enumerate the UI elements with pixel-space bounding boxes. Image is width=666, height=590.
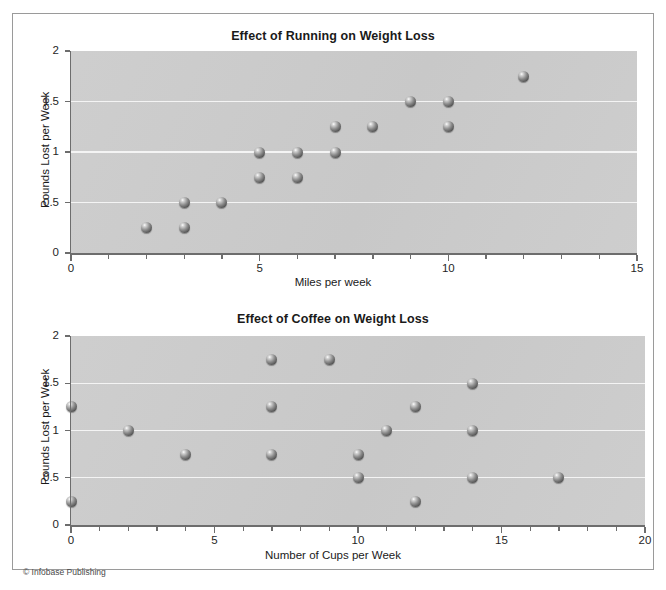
y-axis-tick — [65, 430, 70, 431]
data-point — [292, 147, 303, 158]
gridline — [71, 101, 637, 102]
y-axis-tick — [65, 50, 70, 51]
y-axis-title-running: Pounds Lost per Week — [39, 92, 51, 208]
figure-border: Effect of Running on Weight Loss 00.511.… — [12, 13, 654, 570]
x-axis-tick-label: 0 — [51, 262, 91, 274]
copyright-credit: © Infobase Publishing — [23, 567, 106, 577]
x-axis-tick-label: 0 — [51, 534, 91, 546]
gridline — [71, 202, 637, 203]
x-axis-tick-label: 10 — [338, 534, 378, 546]
x-axis-tick-major — [357, 527, 358, 533]
x-axis-tick-major — [259, 255, 260, 261]
x-axis-tick-major — [70, 255, 71, 261]
data-point — [123, 425, 134, 436]
x-axis-tick-label: 15 — [617, 262, 657, 274]
gridline — [71, 151, 637, 152]
x-axis-tick-minor — [530, 527, 531, 531]
data-point — [467, 378, 478, 389]
y-axis-tick — [65, 524, 70, 525]
x-axis-tick-minor — [616, 527, 617, 531]
y-axis-tick-label: 0 — [25, 246, 59, 258]
data-point — [443, 96, 454, 107]
y-axis-tick — [65, 252, 70, 253]
x-axis-tick-minor — [587, 527, 588, 531]
data-point — [410, 496, 421, 507]
x-axis-tick-minor — [334, 255, 335, 259]
x-axis-tick-minor — [243, 527, 244, 531]
x-axis-tick-minor — [599, 255, 600, 259]
x-axis-tick-minor — [156, 527, 157, 531]
x-axis-tick-major — [214, 527, 215, 533]
chart-title-coffee: Effect of Coffee on Weight Loss — [13, 312, 653, 326]
x-axis-title-running: Miles per week — [13, 276, 653, 288]
data-point — [180, 449, 191, 460]
chart-panel-running: Effect of Running on Weight Loss 00.511.… — [13, 14, 653, 299]
x-axis-tick-major — [636, 255, 637, 261]
chart-panel-coffee: Effect of Coffee on Weight Loss 00.511.5… — [13, 299, 653, 571]
x-axis-tick-minor — [184, 255, 185, 259]
data-point — [324, 354, 335, 365]
x-axis-tick-minor — [523, 255, 524, 259]
y-axis-tick — [65, 101, 70, 102]
x-axis-tick-major — [448, 255, 449, 261]
x-axis-tick-minor — [410, 255, 411, 259]
y-axis-line — [70, 336, 72, 527]
data-point — [330, 121, 341, 132]
x-axis-tick-label: 5 — [195, 534, 235, 546]
data-point — [254, 172, 265, 183]
data-point — [443, 121, 454, 132]
y-axis-line — [70, 51, 72, 255]
data-point — [66, 496, 77, 507]
plot-region-coffee — [71, 336, 645, 525]
data-point — [179, 197, 190, 208]
data-point — [254, 147, 265, 158]
x-axis-tick-minor — [472, 527, 473, 531]
x-axis-tick-minor — [146, 255, 147, 259]
x-axis-tick-major — [501, 527, 502, 533]
y-axis-tick-label: 0 — [25, 518, 59, 530]
y-axis-tick — [65, 335, 70, 336]
x-axis-tick-minor — [271, 527, 272, 531]
x-axis-line — [70, 253, 638, 255]
y-axis-tick — [65, 383, 70, 384]
x-axis-tick-minor — [128, 527, 129, 531]
data-point — [353, 472, 364, 483]
x-axis-tick-minor — [99, 527, 100, 531]
figure-canvas: Effect of Running on Weight Loss 00.511.… — [0, 0, 666, 590]
x-axis-tick-major — [644, 527, 645, 533]
x-axis-tick-label: 20 — [625, 534, 665, 546]
gridline — [71, 383, 645, 384]
data-point — [353, 449, 364, 460]
x-axis-tick-minor — [415, 527, 416, 531]
x-axis-tick-minor — [300, 527, 301, 531]
x-axis-tick-minor — [329, 527, 330, 531]
x-axis-tick-label: 15 — [482, 534, 522, 546]
data-point — [266, 449, 277, 460]
x-axis-tick-label: 10 — [428, 262, 468, 274]
data-point — [518, 71, 529, 82]
y-axis-tick-label: 2 — [25, 329, 59, 341]
data-point — [330, 147, 341, 158]
data-point — [66, 401, 77, 412]
y-axis-tick — [65, 202, 70, 203]
x-axis-title-coffee: Number of Cups per Week — [13, 549, 653, 561]
x-axis-tick-minor — [561, 255, 562, 259]
x-axis-tick-minor — [297, 255, 298, 259]
chart-title-running: Effect of Running on Weight Loss — [13, 29, 653, 43]
x-axis-tick-minor — [485, 255, 486, 259]
x-axis-tick-minor — [558, 527, 559, 531]
x-axis-tick-minor — [221, 255, 222, 259]
y-axis-title-coffee: Pounds Lost per Week — [39, 369, 51, 485]
x-axis-tick-minor — [372, 255, 373, 259]
x-axis-tick-minor — [108, 255, 109, 259]
y-axis-tick — [65, 477, 70, 478]
data-point — [179, 222, 190, 233]
x-axis-tick-label: 5 — [240, 262, 280, 274]
x-axis-tick-minor — [386, 527, 387, 531]
y-axis-tick-label: 2 — [25, 44, 59, 56]
data-point — [292, 172, 303, 183]
x-axis-tick-minor — [185, 527, 186, 531]
gridline — [71, 430, 645, 431]
x-axis-tick-major — [70, 527, 71, 533]
plot-region-running — [71, 51, 637, 253]
